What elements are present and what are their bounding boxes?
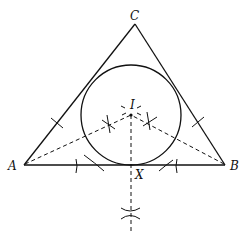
triangle-abc [24,24,225,165]
arc-mark-ab-left [76,159,77,173]
tick-mark-ac [51,118,63,128]
side-bc [135,24,225,165]
label-x: X [134,168,144,182]
label-b: B [229,159,239,173]
construction-arc-left [84,155,104,171]
incircle-diagram: C A B I X [0,0,243,237]
tick-mark-bc [192,117,204,127]
label-i: I [129,98,135,112]
side-ac [24,24,135,165]
label-c: C [130,9,139,23]
bisector-b [131,115,224,164]
label-a: A [7,159,17,173]
bisector-a [25,115,131,164]
incenter-point [129,113,132,116]
cross-mark-left [102,115,115,133]
arc-mark-ab-right [176,159,177,173]
